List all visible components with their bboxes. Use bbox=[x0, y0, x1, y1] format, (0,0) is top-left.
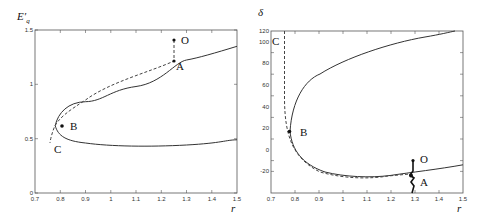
xtick-label: 0.8 bbox=[56, 196, 65, 202]
xtick-label: 1.4 bbox=[208, 196, 217, 202]
label-A: A bbox=[176, 60, 184, 72]
right-lower-branch bbox=[290, 132, 463, 177]
right-ylabel: δ bbox=[258, 6, 264, 18]
xtick-label: 1.3 bbox=[411, 196, 420, 202]
left-y-ticks bbox=[35, 30, 237, 193]
xtick-label: 1.1 bbox=[132, 196, 141, 202]
left-x-ticks bbox=[60, 30, 212, 193]
right-trajectory bbox=[285, 31, 411, 178]
left-y-tick-labels: 0 0.5 1 1.5 bbox=[25, 27, 34, 196]
left-x-tick-labels: 0.7 0.8 0.9 1 1.1 1.2 1.3 1.4 1.5 bbox=[31, 196, 242, 202]
xtick-label: 0.9 bbox=[81, 196, 90, 202]
left-trajectory bbox=[50, 40, 174, 143]
left-upper-branch bbox=[55, 46, 237, 125]
xtick-label: 0.7 bbox=[267, 196, 276, 202]
right-plot: -20 0 20 40 60 80 100 120 0.7 0.8 0.9 1 … bbox=[258, 6, 468, 214]
point-B bbox=[288, 130, 292, 134]
xtick-label: 1 bbox=[341, 196, 345, 202]
xtick-label: 0.7 bbox=[31, 196, 40, 202]
left-plot: 0 0.5 1 1.5 0.7 0.8 0.9 1 1.1 1.2 1.3 1.… bbox=[16, 10, 242, 214]
xtick-label: 1 bbox=[109, 196, 113, 202]
left-xlabel: r bbox=[231, 202, 236, 214]
xtick-label: 0.9 bbox=[315, 196, 324, 202]
figure: 0 0.5 1 1.5 0.7 0.8 0.9 1 1.1 1.2 1.3 1.… bbox=[0, 0, 488, 219]
xtick-label: 0.8 bbox=[291, 196, 300, 202]
label-O: O bbox=[181, 34, 189, 46]
xtick-label: 1.2 bbox=[157, 196, 166, 202]
label-B: B bbox=[300, 126, 307, 138]
left-plot-frame bbox=[35, 30, 237, 193]
label-O: O bbox=[420, 153, 428, 165]
xtick-label: 1.4 bbox=[435, 196, 444, 202]
label-C: C bbox=[272, 35, 279, 47]
ytick-label: 0 bbox=[266, 147, 270, 153]
right-y-ticks bbox=[271, 53, 463, 172]
ytick-label: 60 bbox=[262, 82, 269, 88]
ytick-label: 0.5 bbox=[25, 136, 34, 142]
ytick-label: 1 bbox=[30, 81, 34, 87]
ytick-label: 100 bbox=[259, 39, 270, 45]
ytick-label: 40 bbox=[262, 104, 269, 110]
left-lower-branch bbox=[55, 126, 237, 147]
ytick-label: -20 bbox=[260, 168, 269, 174]
label-C: C bbox=[54, 143, 61, 155]
point-O bbox=[411, 159, 414, 162]
right-xlabel: r bbox=[457, 202, 462, 214]
label-A: A bbox=[420, 176, 428, 188]
left-ylabel: E′q bbox=[16, 10, 30, 25]
right-upper-branch bbox=[290, 31, 455, 132]
point-A bbox=[409, 174, 413, 178]
right-plot-frame bbox=[271, 31, 463, 193]
ytick-label: 80 bbox=[262, 60, 269, 66]
point-B bbox=[60, 124, 64, 128]
ytick-label: 120 bbox=[259, 28, 270, 34]
right-x-tick-labels: 0.7 0.8 0.9 1 1.1 1.2 1.3 1.4 1.5 bbox=[267, 196, 468, 202]
xtick-label: 1.3 bbox=[182, 196, 191, 202]
right-y-tick-labels: -20 0 20 40 60 80 100 120 bbox=[259, 28, 270, 174]
ytick-label: 1.5 bbox=[25, 27, 34, 33]
label-B: B bbox=[70, 120, 77, 132]
xtick-label: 1.1 bbox=[363, 196, 372, 202]
ytick-label: 20 bbox=[262, 125, 269, 131]
point-O bbox=[172, 38, 175, 41]
xtick-label: 1.2 bbox=[387, 196, 396, 202]
